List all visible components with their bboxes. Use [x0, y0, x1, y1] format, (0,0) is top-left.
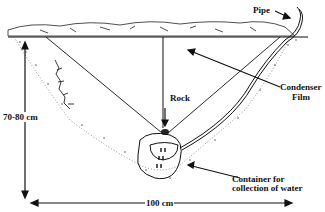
- ground-cover-mound: [8, 22, 295, 36]
- pipe: [180, 7, 303, 150]
- container-label-line2: collection of water: [232, 183, 302, 193]
- rock-label: Rock: [170, 93, 190, 103]
- container: [138, 133, 182, 178]
- pit-outline: [14, 37, 290, 170]
- water-drops: [157, 148, 165, 168]
- depth-label: 70-80 cm: [3, 112, 38, 122]
- vegetation: [55, 60, 74, 109]
- width-label: 100 cm: [145, 198, 174, 208]
- condenser-film-label-line2: Film: [292, 92, 310, 102]
- pipe-label: Pipe: [253, 5, 270, 15]
- soil-speckles: [19, 39, 296, 178]
- condenser-film-label-line1: Condenser: [280, 82, 322, 92]
